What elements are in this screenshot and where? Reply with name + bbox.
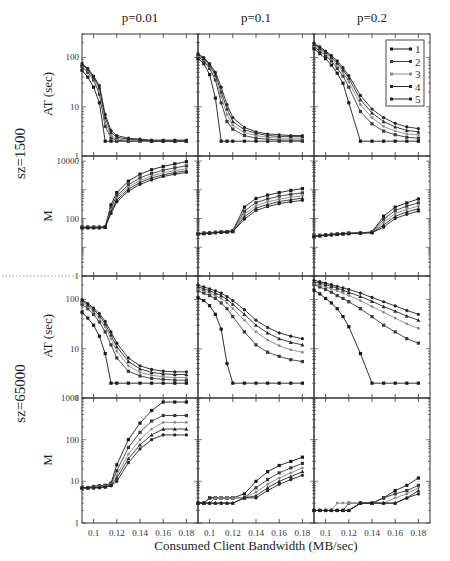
svg-text:10000: 10000: [57, 156, 80, 166]
svg-text:0.14: 0.14: [248, 528, 264, 538]
svg-text:0.14: 0.14: [364, 528, 380, 538]
svg-text:100: 100: [66, 294, 80, 304]
svg-text:0.16: 0.16: [387, 528, 403, 538]
panel-2-2: [312, 276, 430, 398]
panel-2-1: [196, 276, 314, 398]
svg-text:0.18: 0.18: [295, 528, 311, 538]
svg-text:100: 100: [66, 435, 80, 445]
svg-text:1000: 1000: [61, 393, 80, 403]
svg-text:0.18: 0.18: [411, 528, 427, 538]
svg-text:0.1: 0.1: [320, 528, 331, 538]
svg-text:10: 10: [70, 476, 80, 486]
svg-text:0.1: 0.1: [204, 528, 215, 538]
panel-1-1: [196, 156, 314, 276]
svg-text:0.14: 0.14: [132, 528, 148, 538]
svg-text:100: 100: [66, 214, 80, 224]
legend-item-2: 2: [415, 56, 421, 68]
legend: 12345: [386, 40, 424, 106]
panel-1-2: [312, 156, 430, 276]
panel-3-1: 0.10.120.140.160.18: [196, 398, 314, 538]
svg-text:0.12: 0.12: [341, 528, 357, 538]
svg-text:1: 1: [75, 518, 80, 528]
svg-text:100: 100: [66, 52, 80, 62]
panel-3-2: 0.10.120.140.160.18: [312, 398, 430, 538]
chart-grid: 1101001100100001101000.10.120.140.160.18…: [0, 0, 450, 561]
svg-text:10: 10: [70, 344, 80, 354]
legend-item-5: 5: [415, 93, 421, 105]
panel-2-0: 110100: [66, 276, 199, 403]
legend-item-4: 4: [415, 81, 421, 93]
legend-item-3: 3: [415, 68, 421, 80]
panel-3-0: 0.10.120.140.160.181101001000: [61, 393, 198, 538]
legend-item-1: 1: [415, 43, 421, 55]
panel-1-0: 110010000: [57, 156, 199, 281]
x-axis-label: Consumed Client Bandwidth (MB/sec): [82, 538, 430, 554]
panel-0-0: 110100: [66, 34, 199, 161]
svg-text:10: 10: [70, 102, 80, 112]
svg-text:0.16: 0.16: [271, 528, 287, 538]
svg-text:0.1: 0.1: [88, 528, 99, 538]
svg-text:0.12: 0.12: [109, 528, 125, 538]
svg-text:0.16: 0.16: [155, 528, 171, 538]
svg-text:0.18: 0.18: [179, 528, 195, 538]
panel-0-1: [196, 34, 314, 156]
svg-text:0.12: 0.12: [225, 528, 241, 538]
